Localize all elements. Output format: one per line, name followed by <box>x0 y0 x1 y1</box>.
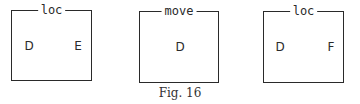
slot-label-left: D <box>275 40 284 54</box>
slot-label-right: E <box>74 39 82 53</box>
box-loc-2: loc D F <box>263 11 344 83</box>
figure-caption: Fig. 16 <box>0 86 360 100</box>
slot-label-right: F <box>328 40 335 54</box>
box-title: loc <box>38 2 66 18</box>
slot-label-center: D <box>175 40 184 54</box>
slot-label-left: D <box>24 39 33 53</box>
box-title: loc <box>290 3 318 19</box>
box-move: move D <box>139 11 219 83</box>
box-title: move <box>162 3 197 19</box>
box-loc-1: loc D E <box>11 10 92 81</box>
